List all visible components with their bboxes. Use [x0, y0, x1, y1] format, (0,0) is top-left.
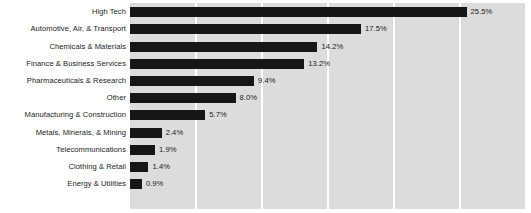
category-label: Other	[0, 93, 126, 103]
bar-row: Pharmaceuticals & Research9.4%	[0, 72, 531, 89]
bar	[130, 7, 467, 17]
bar-row: Telecommunications1.9%	[0, 141, 531, 158]
value-label: 1.9%	[159, 145, 177, 155]
category-label: Manufacturing & Construction	[0, 110, 126, 120]
bar-rows: High Tech25.5%Automotive, Air, & Transpo…	[0, 0, 531, 213]
bar-row: Automotive, Air, & Transport17.5%	[0, 21, 531, 38]
bar-row: Metals, Minerals, & Mining2.4%	[0, 124, 531, 141]
bar-row: Other8.0%	[0, 90, 531, 107]
category-label: Chemicals & Materials	[0, 42, 126, 52]
bar	[130, 110, 205, 120]
bar	[130, 93, 236, 103]
bar	[130, 179, 142, 189]
value-label: 17.5%	[365, 24, 387, 34]
value-label: 0.9%	[146, 179, 164, 189]
bar	[130, 128, 162, 138]
category-label: Pharmaceuticals & Research	[0, 76, 126, 86]
bar-row: Clothing & Retail1.4%	[0, 159, 531, 176]
bar-chart: High Tech25.5%Automotive, Air, & Transpo…	[0, 0, 531, 213]
bar-row: Finance & Business Services13.2%	[0, 55, 531, 72]
value-label: 8.0%	[240, 93, 258, 103]
bar-row: Energy & Utilities0.9%	[0, 176, 531, 193]
category-label: Telecommunications	[0, 145, 126, 155]
bar	[130, 42, 317, 52]
category-label: Clothing & Retail	[0, 162, 126, 172]
category-label: High Tech	[0, 7, 126, 17]
value-label: 1.4%	[152, 162, 170, 172]
value-label: 5.7%	[209, 110, 227, 120]
value-label: 14.2%	[321, 42, 343, 52]
value-label: 9.4%	[258, 76, 276, 86]
category-label: Metals, Minerals, & Mining	[0, 128, 126, 138]
value-label: 13.2%	[308, 59, 330, 69]
bar	[130, 162, 148, 172]
bar	[130, 76, 254, 86]
category-label: Automotive, Air, & Transport	[0, 24, 126, 34]
bar	[130, 145, 155, 155]
value-label: 25.5%	[471, 7, 493, 17]
bar	[130, 59, 304, 69]
bar-row: High Tech25.5%	[0, 4, 531, 21]
category-label: Finance & Business Services	[0, 59, 126, 69]
category-label: Energy & Utilities	[0, 179, 126, 189]
bar	[130, 24, 361, 34]
bar-row: Chemicals & Materials14.2%	[0, 38, 531, 55]
bar-row: Manufacturing & Construction5.7%	[0, 107, 531, 124]
value-label: 2.4%	[166, 128, 184, 138]
